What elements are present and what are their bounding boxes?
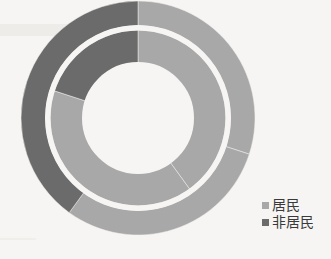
legend-item-non-resident[interactable]: 非居民 <box>262 215 331 229</box>
square-swatch-icon <box>262 219 269 226</box>
donut-svg <box>0 0 265 259</box>
rings-group <box>21 1 255 235</box>
plot-area <box>0 0 265 259</box>
legend-item-label: 居民 <box>272 198 300 212</box>
chart-legend: 居民 非居民 <box>262 198 331 229</box>
donut-hole <box>83 63 193 173</box>
square-swatch-icon <box>262 202 269 209</box>
donut-chart: 居民 非居民 <box>0 0 331 259</box>
legend-item-resident[interactable]: 居民 <box>262 198 331 212</box>
legend-item-label: 非居民 <box>272 215 314 229</box>
